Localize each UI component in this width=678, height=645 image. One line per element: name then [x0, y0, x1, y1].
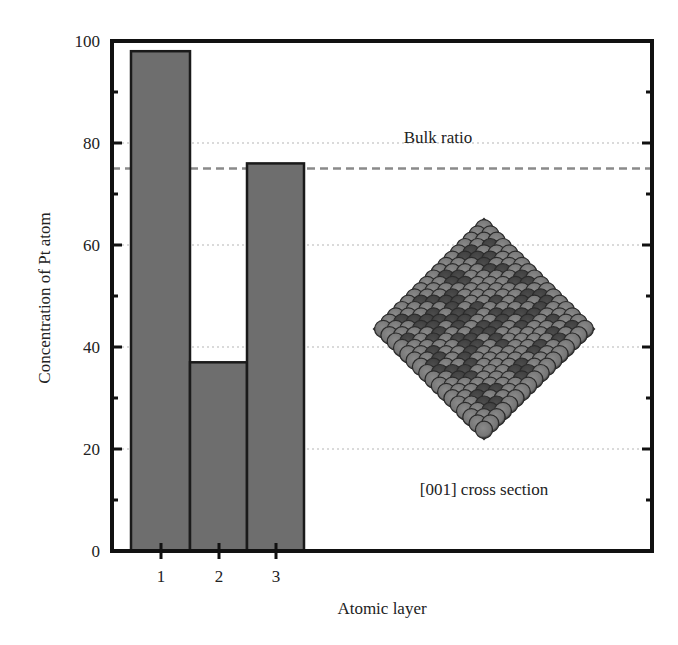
cross-section-caption: [001] cross section — [420, 480, 549, 499]
y-axis-tick-labels: 020406080100 — [75, 32, 101, 561]
bar-layer-1 — [131, 51, 190, 551]
bar-chart: 020406080100 123 Bulk ratio [001] cross … — [0, 0, 678, 645]
y-tick-label: 20 — [83, 440, 100, 459]
x-tick-label: 3 — [272, 567, 281, 586]
atom — [475, 421, 492, 438]
y-tick-label: 100 — [75, 32, 101, 51]
bar-layer-2 — [190, 362, 247, 551]
y-tick-label: 60 — [83, 236, 100, 255]
x-tick-label: 2 — [215, 567, 224, 586]
y-tick-label: 0 — [92, 542, 101, 561]
nanoparticle-cross-section-image — [374, 219, 594, 439]
x-axis-title: Atomic layer — [337, 599, 427, 618]
y-tick-label: 80 — [83, 134, 100, 153]
bulk-ratio-label: Bulk ratio — [404, 128, 472, 147]
bars — [131, 51, 304, 551]
y-axis-title: Concentration of Pt atom — [35, 212, 54, 383]
bar-layer-3 — [247, 163, 304, 551]
y-tick-label: 40 — [83, 338, 100, 357]
x-axis-tick-labels: 123 — [157, 567, 281, 586]
x-tick-label: 1 — [157, 567, 166, 586]
